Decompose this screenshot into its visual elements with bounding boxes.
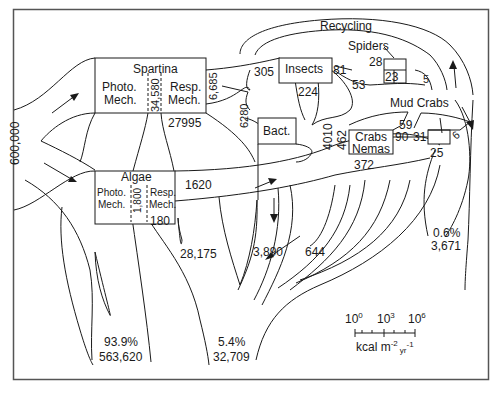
arrow-up-icon [449, 60, 457, 88]
insects-label: Insects [285, 62, 323, 76]
algae-resp-line2: Mech. [149, 199, 176, 210]
arrow-to-spartina-icon [52, 93, 79, 113]
spiders-out-value: 5 [423, 73, 429, 85]
heat-644-value: 644 [305, 245, 325, 259]
spartina-resp-value: 27995 [168, 116, 202, 130]
spiders-in-value: 28 [369, 55, 383, 69]
energy-flow-diagram: 600,000 Spartina Photo. Mech. Resp. Mech… [0, 0, 501, 395]
bacteria-label: Bact. [263, 124, 290, 138]
scale-tick-6: 106 [408, 311, 426, 326]
algae-label: Algae [121, 170, 152, 184]
algae-gross-value: 1,800 [132, 188, 143, 213]
lower-flows [25, 113, 209, 365]
spartina-gross-value: 34,580 [149, 78, 161, 112]
algae-net-value: 1620 [185, 178, 212, 192]
reflected-pct: 93.9% [104, 335, 138, 349]
middle-value: 32,709 [213, 350, 250, 364]
algae-photo-line2: Mech. [98, 199, 125, 210]
recycling-label: Recycling [320, 19, 372, 33]
heat-3890-value: 3,890 [253, 245, 283, 259]
bacteria-outflow [296, 144, 312, 162]
spartina-to-bact-value: 6280 [238, 104, 250, 128]
mud-crabs-label: Mud Crabs [390, 96, 449, 110]
nemas-label: Nemas [352, 142, 390, 156]
spiders-label: Spiders [348, 39, 389, 53]
spartina-label: Spartina [133, 62, 178, 76]
spartina-resp-line1: Resp. [170, 80, 201, 94]
export-value: 3,671 [431, 239, 461, 253]
algae-photo-line1: Photo. [97, 187, 126, 198]
reflected-value: 563,620 [99, 350, 143, 364]
spartina-photo-line2: Mech. [104, 93, 137, 107]
insects-detritus-value: 53 [352, 78, 366, 92]
export-pct: 0.6% [433, 226, 461, 240]
spartina-photo-line1: Photo. [102, 80, 137, 94]
scale-unit: kcal m-2yr-1 [356, 339, 414, 355]
scale-bar [355, 329, 415, 337]
detritus-462-value: 462 [335, 130, 349, 150]
spiders-resp-value: 23 [385, 70, 399, 84]
heat-28175-value: 28,175 [180, 247, 217, 261]
insects-resp-value: 224 [298, 85, 318, 99]
arrow-to-algae-icon [44, 163, 77, 182]
input-pipe [14, 58, 95, 210]
algae-resp-value: 180 [150, 214, 170, 228]
algae-resp-line1: Resp. [150, 187, 176, 198]
detritus-4010-value: 4010 [321, 123, 335, 150]
to-insects-value: 305 [254, 65, 274, 79]
spartina-resp-line2: Mech. [168, 93, 201, 107]
scale-tick-3: 103 [377, 311, 395, 326]
mudcrabs-resp-value: 25 [430, 146, 444, 160]
crabs-resp-value: 372 [354, 158, 374, 172]
insects-out-value: 81 [333, 63, 347, 77]
mudcrabs-90-value: 90 [395, 130, 409, 144]
spartina-out-value: 6,685 [207, 72, 219, 100]
middle-pct: 5.4% [218, 335, 246, 349]
input-value: 600,000 [8, 121, 22, 165]
mudcrabs-31-value: 31 [413, 130, 427, 144]
scale-tick-0: 100 [345, 311, 363, 326]
arrow-down-icon [270, 198, 278, 223]
